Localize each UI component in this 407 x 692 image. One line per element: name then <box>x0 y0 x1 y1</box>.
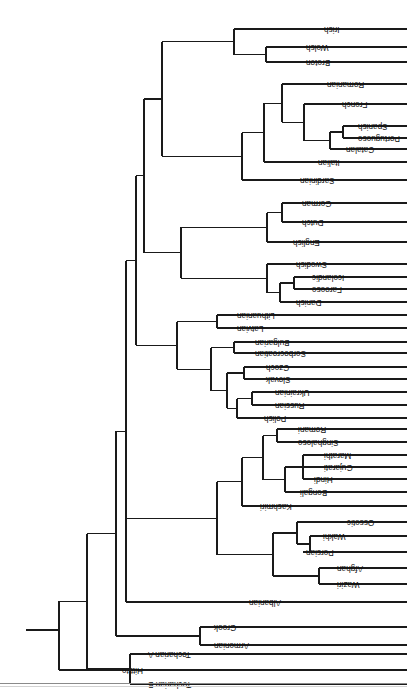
tip-label: German <box>302 199 332 208</box>
tip-label: Sardinian <box>300 176 335 185</box>
tip-label: Hittite <box>122 666 143 675</box>
footer-rule-dark <box>0 683 407 684</box>
tip-label: Russian <box>275 401 305 410</box>
tip-label: Armenian <box>214 641 249 650</box>
tip-label: Swedish <box>296 260 327 269</box>
tip-label: Breton <box>306 58 331 67</box>
tip-label: Portuguese <box>358 134 400 143</box>
tip-label: Welsh <box>306 43 329 52</box>
tip-label: Singhalese <box>298 438 339 447</box>
tip-label: Irish <box>324 25 340 34</box>
tip-label: Slovak <box>265 375 290 384</box>
tip-label: Afghan <box>337 564 363 573</box>
footer-rule-light <box>0 686 407 687</box>
dendrogram-figure: HittiteTocharian BTocharian AArmenianGre… <box>0 0 407 692</box>
tip-label: Bulgarian <box>255 338 290 347</box>
tip-label: Faroese <box>312 285 342 294</box>
tip-label: Romani <box>298 425 326 434</box>
tip-label: Hindi <box>314 475 333 484</box>
tip-label: Lithuanian <box>237 311 275 320</box>
tip-label: Ossetic <box>347 518 374 527</box>
tip-label: Latvian <box>237 324 264 333</box>
tip-label: Ukrainian <box>275 388 310 397</box>
tip-label: Waziri <box>337 580 360 589</box>
tip-label: Gujarati <box>324 463 353 472</box>
tip-label: Polish <box>264 414 287 423</box>
tip-label: Albanian <box>249 598 281 607</box>
tip-label: Tocharian B <box>147 680 191 689</box>
tip-label: Catalan <box>346 145 375 154</box>
tip-label: English <box>293 238 320 247</box>
tip-label: Serbocroatian <box>255 349 306 358</box>
tip-label: Wakhi <box>323 532 346 541</box>
tip-label: Romanian <box>327 80 365 89</box>
tip-label: Kashmiri <box>260 502 292 511</box>
tip-label: Bengali <box>300 488 327 497</box>
tip-label: Czech <box>266 363 290 372</box>
tip-label: Greek <box>213 623 236 632</box>
language-tree-svg: HittiteTocharian BTocharian AArmenianGre… <box>0 0 407 692</box>
dendrogram-rotation-wrapper: HittiteTocharian BTocharian AArmenianGre… <box>0 0 407 692</box>
tip-label: Spanish <box>358 122 388 131</box>
tip-label: Tocharian A <box>147 650 190 659</box>
tip-label: Italian <box>318 158 340 167</box>
tip-label: Marathi <box>324 451 351 460</box>
tip-label: Dutch <box>302 218 324 227</box>
tip-label: Icelandic <box>312 273 344 282</box>
tip-label: French <box>342 100 368 109</box>
tip-label: Danish <box>296 298 322 307</box>
